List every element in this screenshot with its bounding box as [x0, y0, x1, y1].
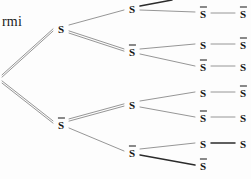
node-label: S	[200, 159, 206, 172]
node-label: S	[240, 7, 246, 20]
node-label: S	[200, 38, 206, 51]
node-label: S	[200, 86, 206, 99]
node-label: S	[129, 45, 135, 58]
tree-edge	[140, 0, 172, 6]
node-label: S	[200, 137, 206, 150]
node-label: S	[200, 111, 206, 124]
tree-node-l4-1: S	[239, 7, 247, 20]
node-label: S	[58, 22, 64, 35]
tree-node-l3-2: S	[199, 38, 207, 51]
tree-node-l3-4: S	[199, 86, 207, 99]
tree-node-l4-4: S	[239, 86, 247, 99]
tree-edge	[2, 81, 53, 121]
tree-edge	[69, 104, 124, 119]
tree-edges-layer	[0, 0, 251, 179]
tree-edge	[69, 33, 124, 51]
tree-node-l2-a: S	[128, 2, 136, 15]
node-label: S	[129, 98, 135, 111]
node-label: S	[240, 86, 246, 99]
node-label: S	[240, 38, 246, 51]
tree-node-l3-5: S	[199, 111, 207, 124]
node-label: S	[240, 60, 246, 73]
tree-edge	[140, 143, 195, 149]
tree-node-l2-b: S	[128, 45, 136, 58]
node-label: S	[200, 7, 206, 20]
tree-node-l3-1: S	[199, 7, 207, 20]
tree-node-l2-d: S	[128, 146, 136, 159]
node-label: S	[58, 118, 64, 131]
tree-node-l4-3: S	[239, 60, 247, 73]
tree-edge	[140, 10, 195, 12]
tree-node-l1-a: S	[57, 22, 65, 35]
node-label: S	[200, 60, 206, 73]
tree-edge	[2, 29, 53, 75]
tree-edge	[69, 106, 124, 121]
caption-text-fragment: rmi	[2, 14, 22, 30]
tree-edge	[2, 31, 53, 77]
tree-node-l3-6: S	[199, 137, 207, 150]
tree-edge	[2, 83, 53, 123]
tree-edge	[140, 54, 195, 66]
node-label: S	[240, 137, 246, 150]
tree-edge	[140, 44, 195, 49]
tree-node-l4-6: S	[239, 137, 247, 150]
tree-node-l4-5: S	[239, 111, 247, 124]
tree-edge	[69, 128, 124, 151]
tree-edge	[140, 155, 195, 165]
node-label: S	[129, 146, 135, 159]
tree-node-l3-3: S	[199, 60, 207, 73]
tree-node-l2-c: S	[128, 98, 136, 111]
tree-node-l3-7: S	[199, 159, 207, 172]
tree-diagram-figure: SSSSSSSSSSSSSSSSSSS rmi	[0, 0, 251, 179]
tree-node-l1-b: S	[57, 118, 65, 131]
tree-edge	[140, 107, 195, 117]
tree-edge	[69, 10, 124, 25]
node-label: S	[240, 111, 246, 124]
tree-edge	[69, 31, 124, 49]
node-label: S	[129, 2, 135, 15]
tree-node-l4-2: S	[239, 38, 247, 51]
tree-edge	[140, 92, 195, 101]
